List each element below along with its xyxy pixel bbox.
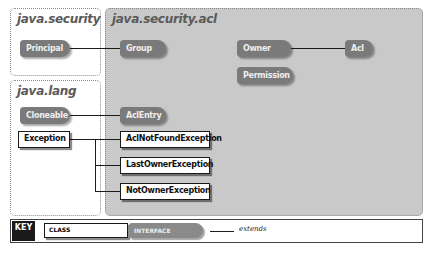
interface-owner[interactable]: Owner [237, 40, 291, 57]
class-exception[interactable]: Exception [18, 131, 70, 148]
key-interface-sample: INTERFACE [129, 223, 203, 238]
interface-permission[interactable]: Permission [237, 67, 293, 84]
edge-principal-group [70, 48, 121, 49]
edge-cloneable-aclentry [70, 115, 121, 116]
interface-principal[interactable]: Principal [20, 40, 70, 57]
package-title: java.lang [17, 84, 76, 98]
package-title: java.security [17, 12, 100, 26]
key-extends-label: extends [239, 225, 267, 233]
key-extends-line [210, 231, 234, 232]
package-title: java.security.acl [112, 12, 217, 26]
interface-acl[interactable]: Acl [345, 40, 373, 57]
key-class-sample: CLASS [44, 223, 128, 238]
class-notownerexception[interactable]: NotOwnerException [120, 183, 210, 200]
edge-exception-notowner [95, 191, 121, 192]
legend-key: KEY CLASS INTERFACE extends [10, 219, 423, 243]
key-label: KEY [12, 221, 35, 241]
edge-exception-lastowner [95, 165, 121, 166]
interface-cloneable[interactable]: Cloneable [20, 107, 70, 124]
interface-group[interactable]: Group [120, 40, 166, 57]
edge-owner-acl [290, 48, 346, 49]
class-lastownerexception[interactable]: LastOwnerException [120, 157, 210, 174]
package-java-lang: java.lang [10, 80, 101, 216]
interface-aclentry[interactable]: AclEntry [120, 107, 166, 124]
class-aclnotfoundexception[interactable]: AclNotFoundException [120, 131, 210, 148]
